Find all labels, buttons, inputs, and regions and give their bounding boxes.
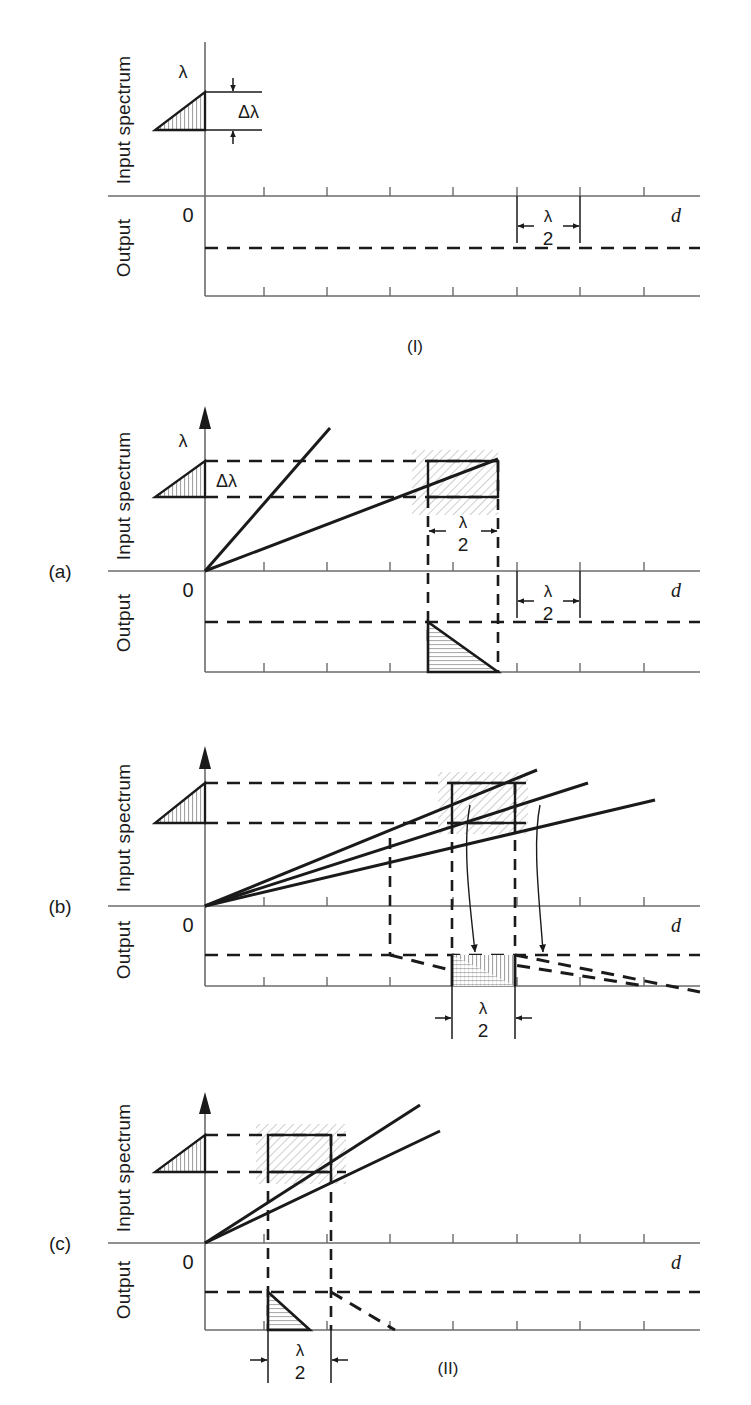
panel-c-box-halo bbox=[256, 1124, 346, 1184]
panel-c-lambda-half-bracket: λ 2 bbox=[250, 1330, 348, 1383]
group-label-I: (I) bbox=[407, 337, 423, 356]
panel-I-lambda-half-bracket: λ 2 bbox=[517, 196, 580, 249]
panel-I-d-label: d bbox=[671, 204, 682, 226]
panel-a-zero-label: 0 bbox=[182, 579, 193, 601]
panel-b-lambda-half-bracket: λ 2 bbox=[435, 986, 532, 1041]
panel-c-bracket-numerator: λ bbox=[296, 1341, 305, 1360]
panel-c-input-spectrum-label: Input spectrum bbox=[113, 1104, 134, 1232]
panel-a-lambda-half-bracket: λ 2 bbox=[517, 571, 580, 624]
panel-a-inner-bracket-denominator: 2 bbox=[458, 534, 469, 555]
panel-tag-c: (c) bbox=[49, 1233, 71, 1254]
panel-a-output-label: Output bbox=[113, 593, 134, 652]
panel-a-lambda-label: λ bbox=[179, 431, 188, 451]
panel-a-bracket-numerator: λ bbox=[544, 582, 553, 601]
panel-b-input-spectrum-label: Input spectrum bbox=[113, 764, 134, 892]
panel-c-output-envelope bbox=[331, 1292, 395, 1330]
panel-a-delta-lambda-label: Δλ bbox=[216, 471, 237, 491]
panel-a: λ Δλ λ 2 0 λ bbox=[48, 406, 700, 672]
panel-I-bracket-denominator: 2 bbox=[543, 228, 554, 249]
panel-c-output-label: Output bbox=[113, 1260, 134, 1319]
panel-a-inner-bracket-numerator: λ bbox=[459, 513, 468, 532]
panel-I-lambda-label: λ bbox=[179, 62, 188, 82]
panel-b-bracket-numerator: λ bbox=[479, 999, 488, 1018]
panel-I-bottom-ticks bbox=[264, 287, 644, 296]
panel-I-bracket-numerator: λ bbox=[544, 207, 553, 226]
panel-c-mid-ticks bbox=[264, 1234, 644, 1243]
panel-b-ray-2 bbox=[205, 783, 588, 906]
panel-b: 0 λ 2 d Input spectrum Output (b) bbox=[48, 746, 700, 1041]
panel-b-vaxis-arrowhead bbox=[199, 746, 211, 769]
panel-b-mid-ticks bbox=[264, 897, 644, 906]
panel-a-d-label: d bbox=[671, 579, 682, 601]
panel-I-delta-lambda-label: Δλ bbox=[238, 102, 259, 122]
panel-I-zero-label: 0 bbox=[182, 204, 193, 226]
panel-b-ray-3 bbox=[205, 800, 655, 906]
panel-I-mid-ticks bbox=[264, 187, 644, 196]
panel-I-input-spectrum-label: Input spectrum bbox=[113, 56, 134, 184]
panel-a-ray-1 bbox=[205, 428, 330, 571]
panel-b-bracket-denominator: 2 bbox=[478, 1020, 489, 1041]
panel-I: λ Δλ 0 λ 2 d Input spectrum Output (I) bbox=[108, 42, 700, 356]
panel-I-output-label: Output bbox=[113, 218, 134, 277]
panel-a-mid-ticks bbox=[264, 562, 644, 571]
panel-tag-b: (b) bbox=[48, 896, 71, 917]
panel-a-input-spectrum-label: Input spectrum bbox=[113, 432, 134, 560]
panel-c-bottom-ticks bbox=[264, 1321, 644, 1330]
panel-tag-a: (a) bbox=[48, 561, 71, 582]
panel-c: 0 λ 2 d Input spectrum Output (c) (II) bbox=[49, 1092, 700, 1383]
panel-c-d-label: d bbox=[671, 1251, 682, 1273]
group-label-II: (II) bbox=[438, 1359, 459, 1378]
panel-a-bracket-denominator: 2 bbox=[543, 603, 554, 624]
panel-b-output-label: Output bbox=[113, 920, 134, 979]
panel-c-zero-label: 0 bbox=[182, 1251, 193, 1273]
panel-a-inner-lambda-half-bracket: λ 2 bbox=[429, 513, 497, 555]
panel-b-d-label: d bbox=[671, 914, 682, 936]
panel-c-vaxis-arrowhead bbox=[199, 1092, 211, 1114]
panel-a-vaxis-arrowhead bbox=[199, 406, 211, 429]
panel-b-zero-label: 0 bbox=[182, 914, 193, 936]
panel-c-bracket-denominator: 2 bbox=[295, 1362, 306, 1383]
figure-svg: λ Δλ 0 λ 2 d Input spectrum Output (I) bbox=[0, 0, 751, 1405]
figure-root: λ Δλ 0 λ 2 d Input spectrum Output (I) bbox=[0, 0, 751, 1405]
